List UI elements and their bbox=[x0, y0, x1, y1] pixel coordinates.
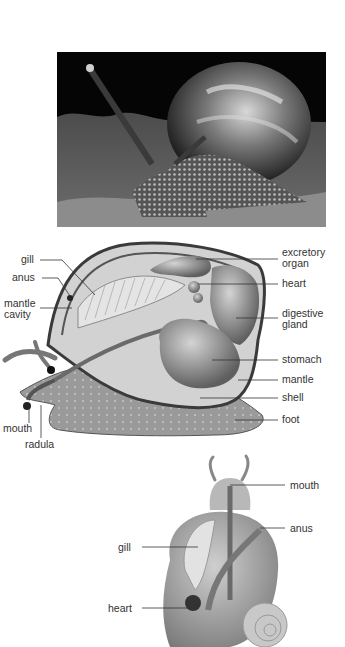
label-gill: gill bbox=[21, 254, 34, 265]
label-mouth: mouth bbox=[3, 423, 32, 434]
snail-photo bbox=[57, 52, 326, 227]
label-foot: foot bbox=[282, 414, 300, 425]
label-shell: shell bbox=[282, 392, 304, 403]
top-label-anus: anus bbox=[290, 523, 313, 534]
label-heart: heart bbox=[282, 278, 306, 289]
top-label-gill: gill bbox=[118, 542, 131, 553]
side-anatomy-diagram: gill anus mantle cavity excretory organ … bbox=[0, 230, 345, 460]
label-radula: radula bbox=[25, 439, 54, 450]
label-mantle: mantle bbox=[282, 374, 314, 385]
label-excretory-organ-line2: organ bbox=[282, 258, 309, 269]
top-anatomy-diagram: mouth anus gill heart bbox=[80, 450, 345, 647]
top-label-heart: heart bbox=[108, 603, 132, 614]
label-mantle-cavity-line2: cavity bbox=[4, 309, 31, 320]
label-stomach: stomach bbox=[282, 354, 322, 365]
label-anus: anus bbox=[12, 272, 35, 283]
label-digestive-gland-line2: gland bbox=[282, 319, 308, 330]
top-label-mouth: mouth bbox=[290, 480, 319, 491]
